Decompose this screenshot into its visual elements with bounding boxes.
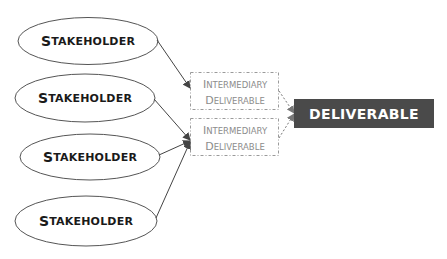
intermediary-rest: NTERMEDIARY (206, 126, 267, 136)
stakeholder-label-rest: TAKEHOLDER (53, 151, 137, 164)
intermediary-rest: NTERMEDIARY (206, 80, 267, 90)
stakeholder-label-rest: TAKEHOLDER (51, 35, 135, 48)
diagram-canvas: STAKEHOLDER STAKEHOLDER STAKEHOLDER STAK… (0, 0, 447, 259)
intermediary-rest: ELIVERABLE (214, 142, 265, 152)
stakeholder-node-2: STAKEHOLDER (15, 74, 155, 122)
stakeholder-node-3: STAKEHOLDER (20, 134, 160, 180)
stakeholder-node-4: STAKEHOLDER (15, 196, 157, 246)
stakeholder-label-cap: S (41, 33, 51, 49)
arrow-intermediary-1-to-deliverable (279, 91, 294, 113)
intermediary-node-1: INTERMEDIARY DELIVERABLE (191, 73, 279, 110)
stakeholder-label-rest: TAKEHOLDER (48, 92, 132, 105)
intermediary-rest: ELIVERABLE (214, 96, 265, 106)
stakeholder-label-cap: S (39, 213, 49, 229)
intermediary-line-2: DELIVERABLE (205, 138, 265, 154)
intermediary-node-2: INTERMEDIARY DELIVERABLE (191, 119, 279, 156)
stakeholder-label-cap: S (38, 90, 48, 106)
intermediary-line-1: INTERMEDIARY (203, 76, 267, 92)
intermediary-line-1: INTERMEDIARY (203, 122, 267, 138)
deliverable-node: DELIVERABLE (294, 99, 434, 128)
arrow-stakeholder-1-to-intermediary-1 (157, 40, 190, 88)
intermediary-cap: D (205, 140, 213, 153)
intermediary-cap: D (205, 94, 213, 107)
deliverable-label: DELIVERABLE (309, 106, 419, 122)
intermediary-line-2: DELIVERABLE (205, 92, 265, 108)
stakeholder-label-rest: TAKEHOLDER (49, 215, 133, 228)
stakeholder-node-1: STAKEHOLDER (18, 17, 158, 65)
arrow-intermediary-2-to-deliverable (279, 114, 294, 138)
arrow-stakeholder-4-to-intermediary-2 (156, 142, 190, 218)
stakeholder-label-cap: S (43, 149, 53, 165)
